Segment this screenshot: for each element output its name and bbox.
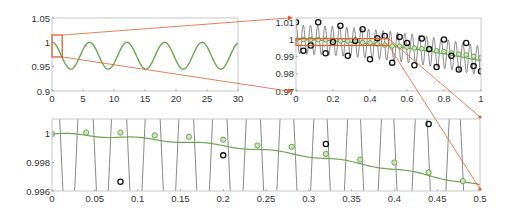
y-tick-label: 0.998 xyxy=(26,157,50,168)
y-tick-label: 1.05 xyxy=(32,13,51,24)
smooth-line xyxy=(52,133,480,184)
sample-marker xyxy=(426,121,431,126)
sample-marker xyxy=(412,63,417,68)
x-tick-label: 0.5 xyxy=(473,193,486,204)
smooth-marker xyxy=(358,157,363,162)
smooth-marker xyxy=(460,178,465,183)
x-tick-label: 0.4 xyxy=(388,193,401,204)
smooth-marker xyxy=(84,130,89,135)
figure: 0510152025300.90.9511.0500.20.40.60.810.… xyxy=(0,0,510,215)
sample-marker xyxy=(441,37,446,42)
arrow-head xyxy=(478,187,481,190)
smooth-marker xyxy=(442,49,447,54)
sample-marker xyxy=(471,63,476,68)
x-tick-label: 0.25 xyxy=(257,193,276,204)
sample-marker xyxy=(221,153,226,158)
y-tick-label: 0.996 xyxy=(26,186,50,197)
x-tick-label: 1 xyxy=(478,93,483,104)
smooth-marker xyxy=(360,40,365,45)
x-tick-label: 0.4 xyxy=(363,93,376,104)
x-tick-label: 5 xyxy=(80,93,85,104)
panel-zoom2: 00.050.10.150.20.250.30.350.40.450.50.99… xyxy=(26,13,486,215)
sample-marker xyxy=(323,141,328,146)
x-tick-label: 0.6 xyxy=(400,93,413,104)
x-tick-label: 0.2 xyxy=(326,93,339,104)
y-tick-label: 0.95 xyxy=(32,61,51,72)
sample-marker xyxy=(345,53,350,58)
smooth-marker xyxy=(323,151,328,156)
smooth-marker xyxy=(255,143,260,148)
smooth-marker xyxy=(420,46,425,51)
x-tick-label: 15 xyxy=(140,93,151,104)
x-tick-label: 0.8 xyxy=(437,93,450,104)
smooth-marker xyxy=(152,133,157,138)
y-tick-label: 1 xyxy=(289,34,294,45)
x-tick-label: 20 xyxy=(171,93,182,104)
panel-overview: 0510152025300.90.9511.05 xyxy=(32,13,244,105)
oscillation-line xyxy=(296,25,481,76)
plot-area xyxy=(293,20,483,76)
x-tick-label: 0.05 xyxy=(86,193,105,204)
x-tick-label: 0.3 xyxy=(302,193,315,204)
sample-marker xyxy=(323,51,328,56)
smooth-marker xyxy=(368,41,373,46)
smooth-marker xyxy=(390,44,395,49)
series-line xyxy=(52,42,238,69)
y-tick-label: 0.99 xyxy=(276,51,295,62)
sample-marker xyxy=(338,23,343,28)
smooth-marker xyxy=(412,46,417,51)
sample-marker xyxy=(316,20,321,25)
sample-marker xyxy=(382,33,387,38)
smooth-marker xyxy=(346,39,351,44)
smooth-marker xyxy=(434,49,439,54)
smooth-marker xyxy=(464,53,469,58)
plot-area xyxy=(49,13,480,215)
x-tick-label: 25 xyxy=(202,93,213,104)
smooth-marker xyxy=(221,137,226,142)
sample-marker xyxy=(464,40,469,45)
smooth-marker xyxy=(457,52,462,57)
x-tick-label: 30 xyxy=(233,93,244,104)
x-tick-label: 10 xyxy=(109,93,120,104)
smooth-marker xyxy=(392,160,397,165)
sample-marker xyxy=(301,48,306,53)
x-tick-label: 0 xyxy=(293,93,298,104)
sample-marker xyxy=(118,179,123,184)
x-tick-label: 0 xyxy=(49,193,54,204)
y-tick-label: 1 xyxy=(45,128,50,139)
x-tick-label: 0.15 xyxy=(171,193,190,204)
arrow-head xyxy=(478,115,481,118)
smooth-marker xyxy=(426,170,431,175)
sample-marker xyxy=(390,60,395,65)
smooth-marker xyxy=(118,130,123,135)
sample-marker xyxy=(397,34,402,39)
connector-line xyxy=(62,57,288,91)
x-tick-label: 0.1 xyxy=(131,193,144,204)
x-tick-label: 0.35 xyxy=(342,193,361,204)
smooth-marker xyxy=(309,37,314,42)
panel-zoom1: 00.20.40.60.810.970.980.9911.01 xyxy=(276,17,484,104)
sample-marker xyxy=(367,57,372,62)
y-tick-label: 0.9 xyxy=(37,86,50,97)
x-tick-label: 0.45 xyxy=(428,193,447,204)
connector-line xyxy=(62,18,288,35)
plot-area xyxy=(52,42,238,69)
x-tick-label: 0 xyxy=(49,93,54,104)
y-tick-label: 0.98 xyxy=(276,68,295,79)
smooth-marker xyxy=(301,37,306,42)
smooth-marker xyxy=(471,54,476,59)
oscillation-line xyxy=(52,13,480,215)
axes-frame xyxy=(52,119,480,191)
smooth-marker xyxy=(186,134,191,139)
x-tick-label: 0.2 xyxy=(217,193,230,204)
smooth-marker xyxy=(289,144,294,149)
y-tick-label: 1 xyxy=(45,37,50,48)
